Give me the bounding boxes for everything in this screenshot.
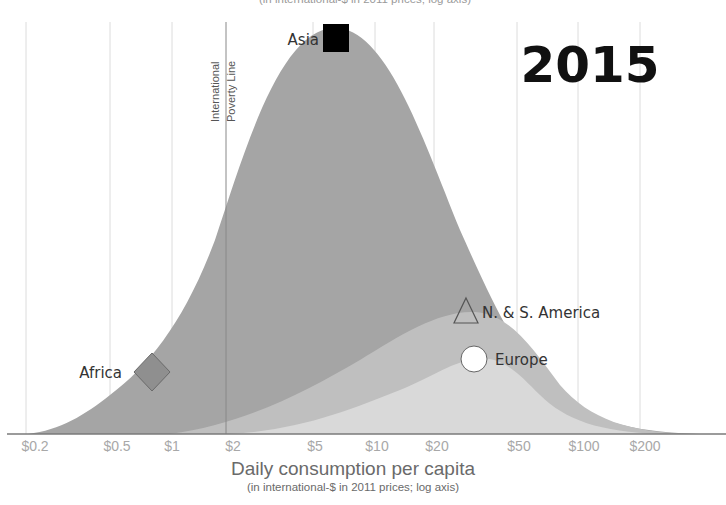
tick-0-2: $0.2 (21, 438, 48, 454)
tick-100: $100 (568, 438, 599, 454)
poverty-line-label-2: Poverty Line (225, 61, 237, 122)
africa-label: Africa (79, 364, 122, 382)
chart: (in international-$ in 2011 prices; log … (0, 0, 726, 505)
asia-square-marker (323, 24, 349, 52)
tick-1: $1 (164, 438, 180, 454)
europe-label: Europe (495, 351, 548, 369)
top-subtitle-cropped: (in international-$ in 2011 prices; log … (259, 0, 471, 5)
tick-200: $200 (629, 438, 660, 454)
europe-circle-marker (461, 346, 487, 372)
year-label: 2015 (520, 36, 659, 94)
tick-5: $5 (307, 438, 323, 454)
tick-50: $50 (507, 438, 531, 454)
tick-20: $20 (425, 438, 449, 454)
asia-label: Asia (288, 31, 319, 49)
x-axis-subtitle: (in international-$ in 2011 prices; log … (247, 481, 459, 493)
tick-2: $2 (225, 438, 241, 454)
tick-10: $10 (365, 438, 389, 454)
america-label: N. & S. America (482, 304, 600, 322)
x-tick-labels: $0.2 $0.5 $1 $2 $5 $10 $20 $50 $100 $200 (21, 438, 660, 454)
x-axis-title: Daily consumption per capita (231, 458, 475, 479)
poverty-line-label-1: International (209, 61, 221, 122)
tick-0-5: $0.5 (103, 438, 130, 454)
